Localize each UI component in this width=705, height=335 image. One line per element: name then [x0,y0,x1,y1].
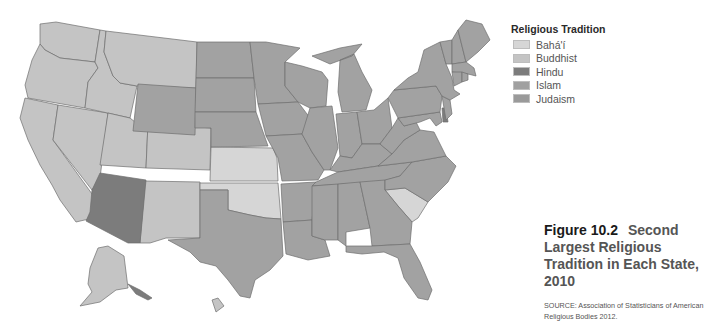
state-arizona [86,173,146,243]
state-kansas [210,147,278,181]
figure-title: Figure 10.2Second Largest Religious Trad… [544,222,705,290]
figure-number: Figure 10.2 [544,222,618,238]
state-wyoming [133,84,196,135]
state-connecticut [452,72,462,86]
legend-item-bahai: Bahá'í [511,38,606,52]
state-iowa [258,102,310,136]
legend-label: Judaism [536,93,575,105]
legend-item-islam: Islam [511,79,606,93]
legend-label: Bahá'í [536,39,565,51]
legend-swatch [513,81,530,90]
state-rhode-island [462,72,468,82]
legend-item-judaism: Judaism [511,92,606,106]
state-florida [346,244,432,300]
state-hawaii [212,298,224,312]
legend-swatch [513,40,530,49]
legend-item-hindu: Hindu [511,65,606,79]
figure-source: SOURCE: Association of Statisticians of … [544,300,705,322]
legend-swatch [513,67,530,76]
state-mississippi [312,184,338,240]
legend-swatch [513,54,530,63]
us-map [0,0,500,335]
state-new-mexico [140,181,200,243]
state-alaska [80,246,128,306]
legend-title: Religious Tradition [511,23,606,35]
state-montana [104,31,197,88]
legend-label: Buddhist [536,52,577,64]
figure-caption: Figure 10.2Second Largest Religious Trad… [544,222,705,322]
legend-label: Hindu [536,66,563,78]
legend-item-buddhist: Buddhist [511,52,606,66]
state-north-dakota [196,42,254,78]
legend: Religious Tradition Bahá'í Buddhist Hind… [511,23,606,106]
state-alaska-panhandle [128,284,152,300]
legend-label: Islam [536,79,561,91]
state-arkansas [281,182,316,222]
legend-swatch [513,94,530,103]
state-pennsylvania [388,86,442,118]
state-south-dakota [195,78,256,112]
